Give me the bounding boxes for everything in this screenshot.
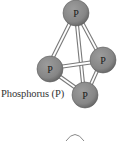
atom-right: P [90,47,116,73]
atom-top: P [63,0,89,26]
molecule-svg: P P P P [0,0,124,141]
atom-bottom: P [72,82,98,108]
atom-left: P [37,56,63,82]
phosphorus-molecule-diagram: P P P P Phosphorus (P) [0,0,124,141]
atom-symbol: P [82,90,88,101]
partial-arc-decoration [66,135,84,142]
atom-symbol: P [73,8,79,19]
atom-symbol: P [47,64,53,75]
molecule-label: Phosphorus (P) [1,88,64,99]
atom-symbol: P [100,55,106,66]
